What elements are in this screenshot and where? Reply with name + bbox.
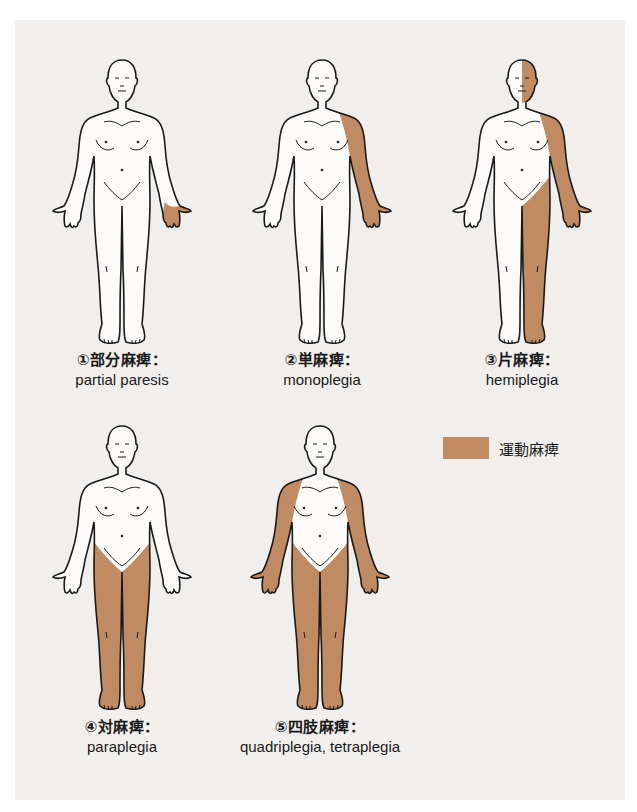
brown-swatch-icon (443, 437, 489, 459)
legend: 運動麻痺 (443, 437, 559, 459)
caption-jp: ②単麻痺： (242, 350, 402, 370)
human-body-icon (52, 422, 192, 712)
caption-en: monoplegia (242, 370, 402, 390)
caption-en: quadriplegia, tetraplegia (205, 737, 435, 757)
figure-monoplegia (252, 56, 392, 346)
human-body-icon (452, 56, 592, 346)
figure-quadriplegia (250, 422, 390, 712)
caption-figure-1: ①部分麻痺： partial paresis (42, 350, 202, 390)
caption-figure-5: ⑤四肢麻痺： quadriplegia, tetraplegia (205, 717, 435, 757)
caption-jp: ④対麻痺： (42, 717, 202, 737)
caption-figure-4: ④対麻痺： paraplegia (42, 717, 202, 757)
caption-figure-2: ②単麻痺： monoplegia (242, 350, 402, 390)
human-body-icon (52, 56, 192, 346)
caption-jp: ⑤四肢麻痺： (205, 717, 435, 737)
caption-figure-3: ③片麻痺： hemiplegia (442, 350, 602, 390)
caption-jp: ③片麻痺： (442, 350, 602, 370)
figure-paraplegia (52, 422, 192, 712)
figure-partial-paresis (52, 56, 192, 346)
human-body-icon (250, 422, 390, 712)
caption-en: paraplegia (42, 737, 202, 757)
caption-en: partial paresis (42, 370, 202, 390)
caption-jp: ①部分麻痺： (42, 350, 202, 370)
caption-en: hemiplegia (442, 370, 602, 390)
figure-hemiplegia (452, 56, 592, 346)
legend-label: 運動麻痺 (499, 438, 559, 459)
human-body-icon (252, 56, 392, 346)
